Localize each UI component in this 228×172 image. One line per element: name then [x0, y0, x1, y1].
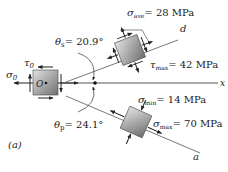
theta-p-label: θp= 24.1° [54, 119, 103, 132]
theta-s-label: θs= 20.9° [55, 36, 103, 49]
sigma-min-label: σmin= 14 MPa [138, 94, 206, 106]
a-axis-label: a [193, 151, 199, 162]
sigma0-label: σ0 [6, 69, 18, 82]
original-stress-element: O [14, 67, 78, 98]
stress-transformation-diagram: x d a O σ0 τ0 θs= 20.9° θp= 24.1° (a) [0, 0, 228, 172]
tau-max-label: τmax= 42 MPa [150, 59, 218, 71]
rotation-center-dot [93, 81, 97, 85]
d-axis-label: d [180, 23, 186, 34]
tau0-label: τ0 [24, 57, 35, 70]
panel-label: (a) [8, 139, 22, 150]
origin-label: O [36, 79, 44, 89]
sigma-max-label: σmax= 70 MPa [153, 118, 222, 130]
x-axis-label: x [220, 78, 225, 88]
sigma-ave-label: σave= 28 MPa [127, 7, 194, 19]
theta-s-arc [78, 53, 94, 80]
theta-p-arc [78, 87, 94, 112]
